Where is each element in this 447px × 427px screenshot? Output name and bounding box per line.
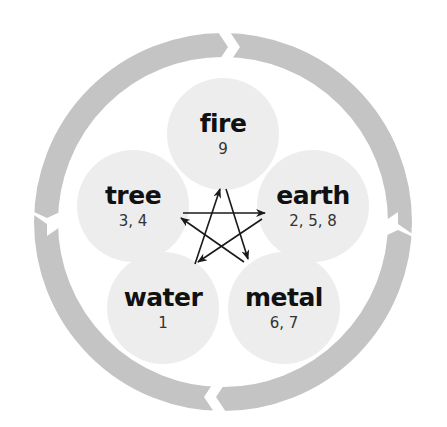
arrow-fire-to-metal (226, 189, 248, 259)
arrow-metal-to-tree (181, 218, 244, 262)
star-arrows (0, 0, 447, 427)
arrow-water-to-fire (195, 189, 220, 264)
five-elements-diagram: fire 9 earth 2, 5, 8 metal 6, 7 water 1 … (0, 0, 447, 427)
